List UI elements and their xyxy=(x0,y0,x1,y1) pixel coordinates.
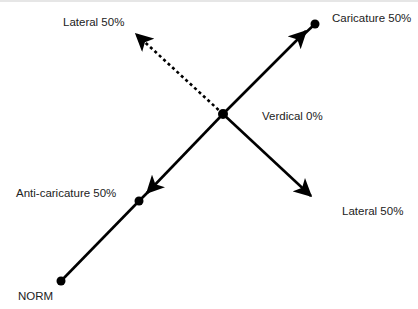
point-norm xyxy=(57,277,66,286)
label-verdical: Verdical 0% xyxy=(262,110,323,123)
label-norm: NORM xyxy=(18,290,53,303)
point-caricature xyxy=(311,20,320,29)
point-verdical xyxy=(218,109,228,119)
diagram-canvas xyxy=(0,0,418,309)
label-lateral-upper: Lateral 50% xyxy=(63,16,124,29)
arrow-lateral-upper xyxy=(136,34,223,114)
arrow-to-caricature xyxy=(223,31,306,114)
axis-norm-to-anti xyxy=(61,201,139,281)
label-caricature: Caricature 50% xyxy=(332,12,411,25)
label-lateral-lower: Lateral 50% xyxy=(342,205,403,218)
label-anti-caricature: Anti-caricature 50% xyxy=(16,187,116,200)
arrow-lateral-lower xyxy=(223,114,311,196)
arrow-to-anti-caricature xyxy=(147,114,223,193)
point-anti-caricature xyxy=(135,197,144,206)
